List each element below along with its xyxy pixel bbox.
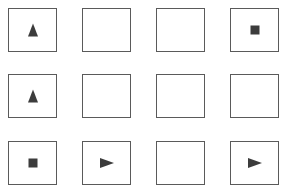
triangle-right-icon bbox=[100, 158, 114, 168]
grid-cell-r1c2 bbox=[82, 8, 131, 52]
grid-cell-r3c1 bbox=[8, 141, 57, 185]
grid-cell-r2c4 bbox=[230, 74, 279, 118]
triangle-up-icon bbox=[28, 24, 38, 37]
grid-cell-r2c2 bbox=[82, 74, 131, 118]
grid-cell-r1c1 bbox=[8, 8, 57, 52]
grid-cell-r3c3 bbox=[156, 141, 205, 185]
grid-cell-r2c3 bbox=[156, 74, 205, 118]
grid-cell-r3c4 bbox=[230, 141, 279, 185]
triangle-right-icon bbox=[248, 158, 262, 168]
triangle-up-icon bbox=[28, 90, 38, 103]
grid-cell-r1c4 bbox=[230, 8, 279, 52]
grid-cell-r2c1 bbox=[8, 74, 57, 118]
square-icon bbox=[28, 159, 37, 168]
grid-cell-r3c2 bbox=[82, 141, 131, 185]
square-icon bbox=[250, 26, 259, 35]
grid-cell-r1c3 bbox=[156, 8, 205, 52]
